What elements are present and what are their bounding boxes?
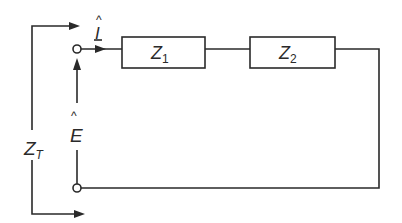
- zt-top-arrow-icon: [69, 22, 80, 30]
- zt-bracket-line: [32, 26, 76, 214]
- current-arrow-icon: [95, 45, 106, 53]
- top-terminal: [73, 45, 81, 53]
- return-wire: [81, 49, 379, 188]
- impedance-z1: Z1: [122, 37, 205, 68]
- e-label: E: [70, 125, 83, 146]
- e-hat-mark: ^: [71, 109, 77, 123]
- series-circuit-diagram: ZT ^ E ^ I Z1 Z2: [0, 0, 402, 223]
- e-up-arrow-icon: [73, 58, 81, 70]
- impedance-z2: Z2: [250, 37, 335, 68]
- zt-bottom-arrow-icon: [74, 210, 85, 218]
- bottom-terminal: [73, 184, 81, 192]
